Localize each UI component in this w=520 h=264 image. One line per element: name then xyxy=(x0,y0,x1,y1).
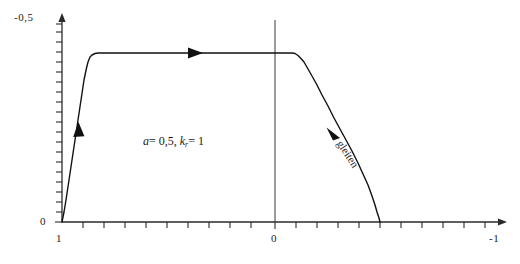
x-axis-label-one: 1 xyxy=(56,232,62,244)
param-k-value: = 1 xyxy=(188,134,204,148)
y-axis-group xyxy=(55,13,66,222)
x-axis-label-negative-one: -1 xyxy=(489,232,499,244)
y-axis-arrowhead xyxy=(58,13,65,22)
y-axis-ticks xyxy=(55,24,62,222)
down-arrow-falling-branch xyxy=(327,128,341,141)
x-axis-label-zero: 0 xyxy=(271,232,277,244)
parameter-annotation: a= 0,5, kr= 1 xyxy=(143,134,204,149)
x-axis-arrowhead xyxy=(498,218,507,225)
param-separator: , xyxy=(174,134,177,148)
x-axis-ticks xyxy=(83,222,485,229)
hysteresis-chart-figure: -0,5 0 1 0 -1 a= 0,5, kr= 1 gleiten xyxy=(0,0,520,264)
right-arrow-plateau xyxy=(188,48,203,59)
chart-plot-area xyxy=(0,0,520,264)
x-axis-group xyxy=(62,218,507,229)
up-arrow-rising-branch xyxy=(73,122,84,137)
y-axis-top-label: -0,5 xyxy=(14,11,33,23)
param-a-value: = 0,5 xyxy=(149,134,174,148)
y-axis-origin-label: 0 xyxy=(40,215,46,227)
